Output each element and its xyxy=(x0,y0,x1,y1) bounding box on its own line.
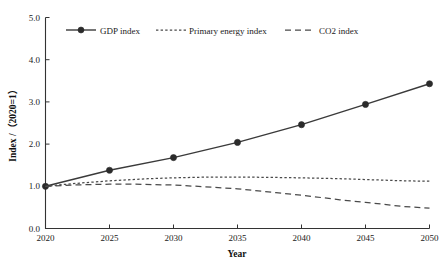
x-axis-title: Year xyxy=(228,249,248,259)
x-axis-ticks xyxy=(46,225,430,229)
data-point-gdp-index-2050 xyxy=(426,81,432,87)
x-tick-label-2040: 2040 xyxy=(293,233,312,243)
x-axis-tick-labels: 2020 2025 2030 2035 2040 2045 2050 xyxy=(37,233,440,243)
legend-marker-gdp-index xyxy=(78,27,84,33)
y-tick-label-0: 0.0 xyxy=(29,224,41,234)
legend-label-gdp-index: GDP index xyxy=(100,26,140,36)
data-point-gdp-index-2040 xyxy=(298,122,304,128)
data-point-gdp-index-2030 xyxy=(170,155,176,161)
y-axis-tick-labels: 0.0 1.0 2.0 3.0 4.0 5.0 xyxy=(29,13,41,234)
data-point-gdp-index-2035 xyxy=(234,139,240,145)
x-tick-label-2050: 2050 xyxy=(421,233,440,243)
axes-frame xyxy=(46,18,430,229)
data-point-gdp-index-2025 xyxy=(106,167,112,173)
x-tick-label-2030: 2030 xyxy=(165,233,184,243)
y-tick-label-3: 3.0 xyxy=(29,97,41,107)
y-tick-label-2: 2.0 xyxy=(29,139,41,149)
x-tick-label-2045: 2045 xyxy=(357,233,376,243)
x-tick-label-2020: 2020 xyxy=(37,233,56,243)
chart-legend: GDP index Primary energy index CO2 index xyxy=(66,26,359,36)
legend-label-primary-energy-index: Primary energy index xyxy=(189,26,267,36)
series-line-gdp-index xyxy=(46,84,430,187)
data-point-gdp-index-2045 xyxy=(362,101,368,107)
series-line-co2-index xyxy=(46,184,430,208)
axis-lines xyxy=(46,18,430,229)
series-line-primary-energy-index xyxy=(46,177,430,186)
y-tick-label-5: 5.0 xyxy=(29,13,41,23)
y-tick-label-1: 1.0 xyxy=(29,181,41,191)
legend-label-co2-index: CO2 index xyxy=(319,26,359,36)
x-tick-label-2035: 2035 xyxy=(229,233,248,243)
x-tick-label-2025: 2025 xyxy=(101,233,120,243)
y-tick-label-4: 4.0 xyxy=(29,55,41,65)
chart-figure: 0.0 1.0 2.0 3.0 4.0 5.0 2020 2025 2030 2… xyxy=(0,0,444,267)
y-axis-ticks xyxy=(46,18,50,229)
series-layer xyxy=(42,81,432,209)
y-axis-title: Index /（2020=1） xyxy=(7,84,18,161)
line-chart-svg: 0.0 1.0 2.0 3.0 4.0 5.0 2020 2025 2030 2… xyxy=(0,0,444,267)
